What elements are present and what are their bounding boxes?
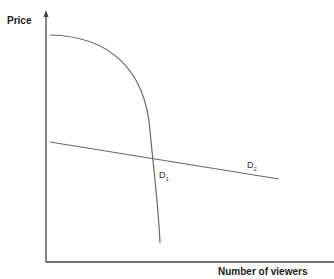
y-axis-arrow-icon bbox=[44, 10, 49, 17]
diagram-canvas bbox=[0, 0, 334, 279]
d2-label-sub: 2 bbox=[254, 166, 257, 172]
d1-label-sub: 1 bbox=[166, 176, 169, 182]
d1-label: D1 bbox=[159, 170, 169, 182]
x-axis-label: Number of viewers bbox=[218, 266, 307, 277]
demand-diagram: Price Number of viewers D1 D2 bbox=[0, 0, 334, 279]
d2-label: D2 bbox=[247, 160, 257, 172]
y-axis-label: Price bbox=[7, 15, 31, 26]
curve-d1 bbox=[50, 35, 160, 243]
